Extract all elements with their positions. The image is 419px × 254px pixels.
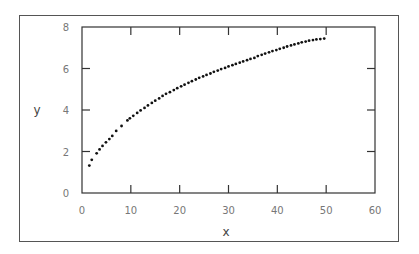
x-axis-label: x <box>222 225 229 239</box>
data-point <box>98 148 101 151</box>
data-point <box>143 107 146 110</box>
data-point <box>278 47 281 50</box>
data-point <box>132 114 135 117</box>
data-point <box>165 92 168 95</box>
data-point <box>187 81 190 84</box>
data-point <box>282 46 285 49</box>
data-point <box>249 58 252 61</box>
data-point <box>293 43 296 46</box>
data-point <box>115 130 118 133</box>
data-point <box>231 64 234 67</box>
data-point <box>227 65 230 68</box>
data-point <box>275 49 278 52</box>
data-point <box>212 70 215 73</box>
data-point <box>268 51 271 54</box>
plot-area <box>82 27 375 193</box>
y-axis-label: y <box>33 103 40 117</box>
data-point <box>128 117 131 120</box>
y-tick-label: 8 <box>63 22 69 33</box>
data-point <box>105 141 108 144</box>
data-point <box>256 55 259 58</box>
data-point <box>297 42 300 45</box>
y-tick-label: 4 <box>63 105 69 116</box>
data-point <box>264 52 267 55</box>
data-point <box>154 99 157 102</box>
data-point <box>290 44 293 47</box>
data-point <box>150 102 153 105</box>
data-point <box>136 112 139 115</box>
data-point <box>312 39 315 42</box>
data-point <box>319 38 322 41</box>
data-point <box>161 94 164 97</box>
data-point <box>90 158 93 161</box>
data-point <box>224 66 227 69</box>
data-point <box>108 138 111 141</box>
x-tick-label: 40 <box>271 205 284 216</box>
data-point <box>260 53 263 56</box>
x-tick-label: 0 <box>79 205 85 216</box>
data-point <box>158 97 161 100</box>
data-point <box>300 41 303 44</box>
data-point <box>304 40 307 43</box>
y-axis-ticks: 02468 <box>63 22 375 199</box>
data-point <box>183 83 186 86</box>
data-point <box>209 72 212 75</box>
data-point <box>139 109 142 112</box>
data-point <box>172 89 175 92</box>
scatter-chart: 0102030405060 02468 x y <box>0 0 419 254</box>
x-tick-label: 50 <box>320 205 333 216</box>
data-point <box>194 78 197 81</box>
data-point <box>220 68 223 71</box>
data-point <box>120 125 123 128</box>
x-tick-label: 20 <box>173 205 186 216</box>
y-tick-label: 6 <box>63 64 69 75</box>
data-point <box>101 144 104 147</box>
data-point <box>111 135 114 138</box>
data-point <box>253 57 256 60</box>
data-point <box>271 50 274 53</box>
data-point <box>238 61 241 64</box>
data-points <box>88 37 326 167</box>
x-tick-label: 30 <box>222 205 235 216</box>
data-point <box>176 87 179 90</box>
data-point <box>190 80 193 83</box>
data-point <box>323 37 326 40</box>
data-point <box>169 91 172 94</box>
data-point <box>308 39 311 42</box>
data-point <box>286 45 289 48</box>
y-tick-label: 2 <box>63 147 69 158</box>
data-point <box>88 164 91 167</box>
x-tick-label: 10 <box>124 205 137 216</box>
data-point <box>180 85 183 88</box>
data-point <box>246 59 249 62</box>
data-point <box>216 69 219 72</box>
x-tick-label: 60 <box>369 205 382 216</box>
data-point <box>205 74 208 77</box>
data-point <box>198 76 201 79</box>
data-point <box>234 63 237 66</box>
x-axis-ticks: 0102030405060 <box>79 27 382 216</box>
data-point <box>126 119 129 122</box>
data-point <box>242 60 245 63</box>
y-tick-label: 0 <box>63 188 69 199</box>
data-point <box>95 152 98 155</box>
data-point <box>315 38 318 41</box>
data-point <box>147 104 150 107</box>
data-point <box>202 75 205 78</box>
